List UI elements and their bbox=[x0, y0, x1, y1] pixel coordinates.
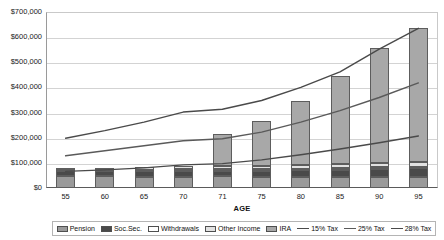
legend-item-25-tax[interactable]: 25% Tax bbox=[344, 225, 385, 233]
legend-line-marker bbox=[297, 228, 309, 229]
legend-label: Withdrawals bbox=[161, 225, 199, 233]
legend-swatch bbox=[57, 226, 68, 232]
line-15-tax bbox=[66, 28, 419, 138]
legend-swatch bbox=[266, 226, 277, 232]
legend-line-marker bbox=[391, 228, 403, 229]
line-28-tax bbox=[66, 136, 419, 171]
legend-item-pension[interactable]: Pension bbox=[57, 225, 95, 233]
legend-label: IRA bbox=[279, 225, 291, 233]
x-axis-title: AGE bbox=[46, 204, 438, 213]
legend-label: Other Income bbox=[218, 225, 260, 233]
legend-item-soc-sec[interactable]: Soc.Sec. bbox=[101, 225, 142, 233]
legend-item-withdrawals[interactable]: Withdrawals bbox=[148, 225, 199, 233]
legend-label: Pension bbox=[70, 225, 95, 233]
legend-label: 28% Tax bbox=[405, 225, 432, 233]
legend-swatch bbox=[101, 226, 112, 232]
legend-swatch bbox=[205, 226, 216, 232]
chart-legend: PensionSoc.Sec.WithdrawalsOther IncomeIR… bbox=[52, 221, 436, 236]
legend-item-ira[interactable]: IRA bbox=[266, 225, 291, 233]
retirement-income-tax-chart: $0$100,000$200,000$300,000$400,000$500,0… bbox=[0, 0, 444, 240]
legend-line-marker bbox=[344, 228, 356, 229]
legend-label: Soc.Sec. bbox=[114, 225, 142, 233]
legend-item-15-tax[interactable]: 15% Tax bbox=[297, 225, 338, 233]
legend-swatch bbox=[148, 226, 159, 232]
legend-item-28-tax[interactable]: 28% Tax bbox=[391, 225, 432, 233]
legend-label: 15% Tax bbox=[311, 225, 338, 233]
legend-item-other-income[interactable]: Other Income bbox=[205, 225, 260, 233]
legend-label: 25% Tax bbox=[358, 225, 385, 233]
